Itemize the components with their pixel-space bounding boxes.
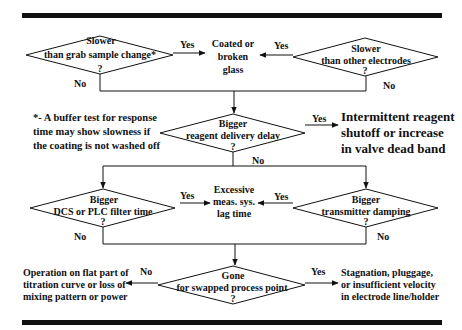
excessive-line1: Excessive xyxy=(213,184,255,196)
outcome-operation: Operation on flat part of titration curv… xyxy=(23,267,129,303)
d3-no-label: No xyxy=(252,155,264,167)
stagnation-line3: in electrode line/holder xyxy=(341,291,439,303)
bottom-rule xyxy=(22,320,442,325)
footnote-line1: *- A buffer test for response xyxy=(33,111,160,125)
d6-question-mark: ? xyxy=(231,293,236,304)
footnote: *- A buffer test for response time may s… xyxy=(33,111,160,153)
d4-yes-label: Yes xyxy=(180,190,194,202)
intermittent-line1: Intermittent reagent xyxy=(341,109,454,125)
coated-line3: glass xyxy=(212,63,255,76)
top-rule xyxy=(22,13,442,18)
d2-line1: Slower xyxy=(351,43,380,55)
excessive-line3: lag time xyxy=(213,208,255,220)
operation-line1: Operation on flat part of xyxy=(23,267,129,279)
coated-line1: Coated or xyxy=(212,37,255,50)
d3-yes-label: Yes xyxy=(312,113,326,125)
d6-line1: Gone xyxy=(222,270,245,282)
operation-line2: titration curve or loss of xyxy=(23,279,129,291)
footnote-line3: the coating is not washed off xyxy=(33,139,160,153)
coated-line2: broken xyxy=(212,50,255,63)
operation-line3: mixing pattern or power xyxy=(23,291,129,303)
d1-line2: than grab sample change* xyxy=(44,49,156,61)
d6-no-label: No xyxy=(140,266,152,278)
outcome-stagnation: Stagnation, pluggage, or insufficient ve… xyxy=(341,267,439,303)
excessive-line2: meas. sys. xyxy=(213,196,255,208)
d1-question-mark: ? xyxy=(98,63,103,74)
d3-question-mark: ? xyxy=(231,141,236,152)
d4-line1: Bigger xyxy=(90,194,118,206)
d1-no-label: No xyxy=(74,78,86,90)
outcome-intermittent: Intermittent reagent shutoff or increase… xyxy=(341,109,454,157)
d2-no-label: No xyxy=(383,80,395,92)
stagnation-line2: or insufficient velocity xyxy=(341,279,439,291)
stagnation-line1: Stagnation, pluggage, xyxy=(341,267,439,279)
d2-yes-label: Yes xyxy=(274,40,288,52)
intermittent-line2: shutoff or increase xyxy=(341,125,454,141)
d1-yes-label: Yes xyxy=(180,39,194,51)
d4-question-mark: ? xyxy=(101,216,106,227)
d1-line1: Slower xyxy=(86,35,115,47)
intermittent-line3: in valve dead band xyxy=(341,141,454,157)
outcome-coated: Coated or broken glass xyxy=(212,37,255,76)
d2-question-mark: ? xyxy=(363,65,368,76)
outcome-excessive: Excessive meas. sys. lag time xyxy=(213,184,255,220)
d5-line1: Bigger xyxy=(352,194,380,206)
footnote-line2: time may show slowness if xyxy=(33,125,160,139)
d5-no-label: No xyxy=(377,231,389,243)
d6-yes-label: Yes xyxy=(311,266,325,278)
d4-no-label: No xyxy=(74,231,86,243)
d5-question-mark: ? xyxy=(364,216,369,227)
d3-line1: Bigger xyxy=(219,118,247,130)
d5-yes-label: Yes xyxy=(274,191,288,203)
